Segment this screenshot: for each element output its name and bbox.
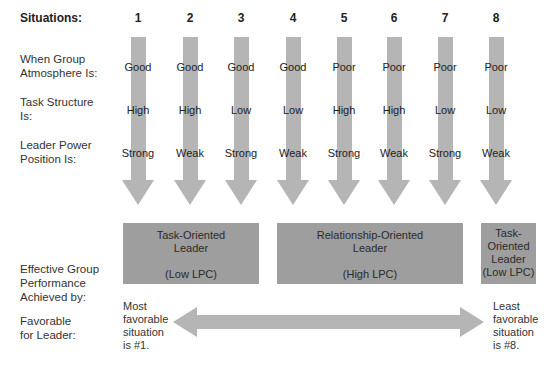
- row-label-line: Performance: [20, 276, 99, 290]
- task-value-8: Low: [471, 104, 521, 116]
- atmosphere-value-6: Poor: [369, 61, 419, 73]
- task-value-6: High: [369, 104, 419, 116]
- row-label-line: When Group: [20, 52, 97, 66]
- note-line: Least: [493, 300, 538, 313]
- box-line: Oriented: [481, 240, 536, 253]
- row-label-line: Achieved by:: [20, 290, 99, 304]
- row-label-performance: Effective Group Performance Achieved by:: [20, 262, 99, 304]
- power-value-4: Weak: [268, 147, 318, 159]
- row-label-atmosphere: When Group Atmosphere Is:: [20, 52, 97, 80]
- power-value-6: Weak: [369, 147, 419, 159]
- box-line: Leader: [277, 242, 463, 255]
- task-oriented-leader-box-1: Task-Oriented Leader (Low LPC): [123, 223, 259, 284]
- row-label-task-structure: Task Structure Is:: [20, 95, 94, 123]
- box-line: Leader: [123, 242, 259, 255]
- note-line: favorable: [123, 313, 168, 326]
- box-lpc-label: (Low LPC): [481, 266, 536, 279]
- situation-number-4: 4: [278, 11, 308, 25]
- situation-number-2: 2: [175, 11, 205, 25]
- row-label-line: Task Structure: [20, 95, 94, 109]
- atmosphere-value-8: Poor: [471, 61, 521, 73]
- atmosphere-value-1: Good: [113, 61, 163, 73]
- note-line: situation: [493, 326, 538, 339]
- box-lpc-label: (Low LPC): [123, 268, 259, 281]
- note-line: is #8.: [493, 339, 538, 352]
- task-value-5: High: [319, 104, 369, 116]
- task-value-7: Low: [420, 104, 470, 116]
- relationship-oriented-leader-box: Relationship-Oriented Leader (High LPC): [277, 223, 463, 284]
- atmosphere-value-5: Poor: [319, 61, 369, 73]
- note-line: Most: [123, 300, 168, 313]
- row-label-favorable: Favorable for Leader:: [20, 314, 76, 342]
- atmosphere-value-2: Good: [165, 61, 215, 73]
- atmosphere-value-3: Good: [216, 61, 266, 73]
- row-label-line: Effective Group: [20, 262, 99, 276]
- situation-number-1: 1: [123, 11, 153, 25]
- row-label-line: Position Is:: [20, 152, 92, 166]
- power-value-8: Weak: [471, 147, 521, 159]
- power-value-3: Strong: [216, 147, 266, 159]
- row-label-line: Is:: [20, 109, 94, 123]
- atmosphere-value-4: Good: [268, 61, 318, 73]
- situation-number-8: 8: [481, 11, 511, 25]
- row-label-power-position: Leader Power Position Is:: [20, 138, 92, 166]
- note-line: situation: [123, 326, 168, 339]
- double-arrow-favorability: [173, 307, 484, 337]
- power-value-5: Strong: [319, 147, 369, 159]
- situation-number-5: 5: [329, 11, 359, 25]
- box-line: Relationship-Oriented: [277, 229, 463, 242]
- power-value-1: Strong: [113, 147, 163, 159]
- row-label-line: Atmosphere Is:: [20, 66, 97, 80]
- task-value-4: Low: [268, 104, 318, 116]
- box-line: Task-: [481, 227, 536, 240]
- situation-number-3: 3: [226, 11, 256, 25]
- task-value-1: High: [113, 104, 163, 116]
- situation-number-7: 7: [430, 11, 460, 25]
- box-line: Task-Oriented: [123, 229, 259, 242]
- row-label-line: for Leader:: [20, 328, 76, 342]
- box-line: Leader: [481, 253, 536, 266]
- task-value-2: High: [165, 104, 215, 116]
- note-line: favorable: [493, 313, 538, 326]
- box-lpc-label: (High LPC): [277, 268, 463, 281]
- most-favorable-note: Most favorable situation is #1.: [123, 300, 168, 352]
- power-value-2: Weak: [165, 147, 215, 159]
- note-line: is #1.: [123, 339, 168, 352]
- situations-header: Situations:: [20, 11, 82, 25]
- task-value-3: Low: [216, 104, 266, 116]
- task-oriented-leader-box-8: Task- Oriented Leader (Low LPC): [481, 223, 536, 284]
- atmosphere-value-7: Poor: [420, 61, 470, 73]
- row-label-line: Favorable: [20, 314, 76, 328]
- situation-number-6: 6: [379, 11, 409, 25]
- least-favorable-note: Least favorable situation is #8.: [493, 300, 538, 352]
- row-label-line: Leader Power: [20, 138, 92, 152]
- power-value-7: Strong: [420, 147, 470, 159]
